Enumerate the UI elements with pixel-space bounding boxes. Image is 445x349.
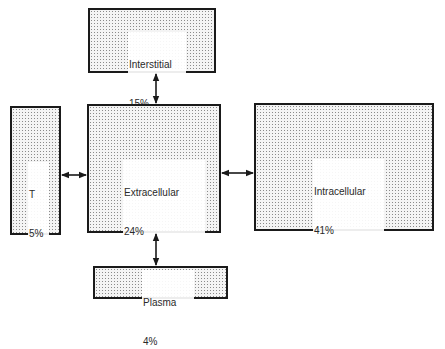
extracellular-label: Extracellular 24% <box>123 160 205 265</box>
plasma-box: Plasma 4% <box>93 266 228 299</box>
extracellular-percent: 24% <box>124 225 179 238</box>
intracellular-percent: 41% <box>314 224 366 237</box>
plasma-label: Plasma 4% <box>142 270 194 349</box>
extracellular-name: Extracellular <box>124 186 179 199</box>
extracellular-box: Extracellular 24% <box>87 104 221 233</box>
intracellular-name: Intracellular <box>314 185 366 198</box>
interstitial-box: Interstitial 15% <box>88 8 216 73</box>
plasma-percent: 4% <box>143 335 176 348</box>
transcellular-box: T 5% <box>10 106 61 235</box>
transcellular-name: T <box>29 188 43 201</box>
intracellular-label: Intracellular 41% <box>313 159 384 264</box>
plasma-name: Plasma <box>143 296 176 309</box>
intracellular-box: Intracellular 41% <box>254 103 434 231</box>
transcellular-label: T 5% <box>28 162 49 267</box>
interstitial-name: Interstitial <box>129 58 172 71</box>
transcellular-percent: 5% <box>29 227 43 240</box>
